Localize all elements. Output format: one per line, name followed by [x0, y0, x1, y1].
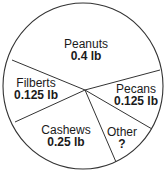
pie-chart: Peanuts 0.4 lb Pecans 0.125 lb Other ? C…	[0, 0, 166, 174]
slice-pecans: Pecans 0.125 lb	[114, 82, 158, 108]
slice-filberts: Filberts 0.125 lb	[14, 76, 58, 102]
slice-value: 0.125 lb	[14, 88, 58, 102]
slice-value: 0.25 lb	[47, 135, 84, 149]
slice-value: 0.4 lb	[71, 49, 102, 63]
slice-cashews: Cashews 0.25 lb	[41, 123, 90, 149]
slice-value: 0.125 lb	[114, 94, 158, 108]
slice-value: ?	[118, 137, 125, 151]
